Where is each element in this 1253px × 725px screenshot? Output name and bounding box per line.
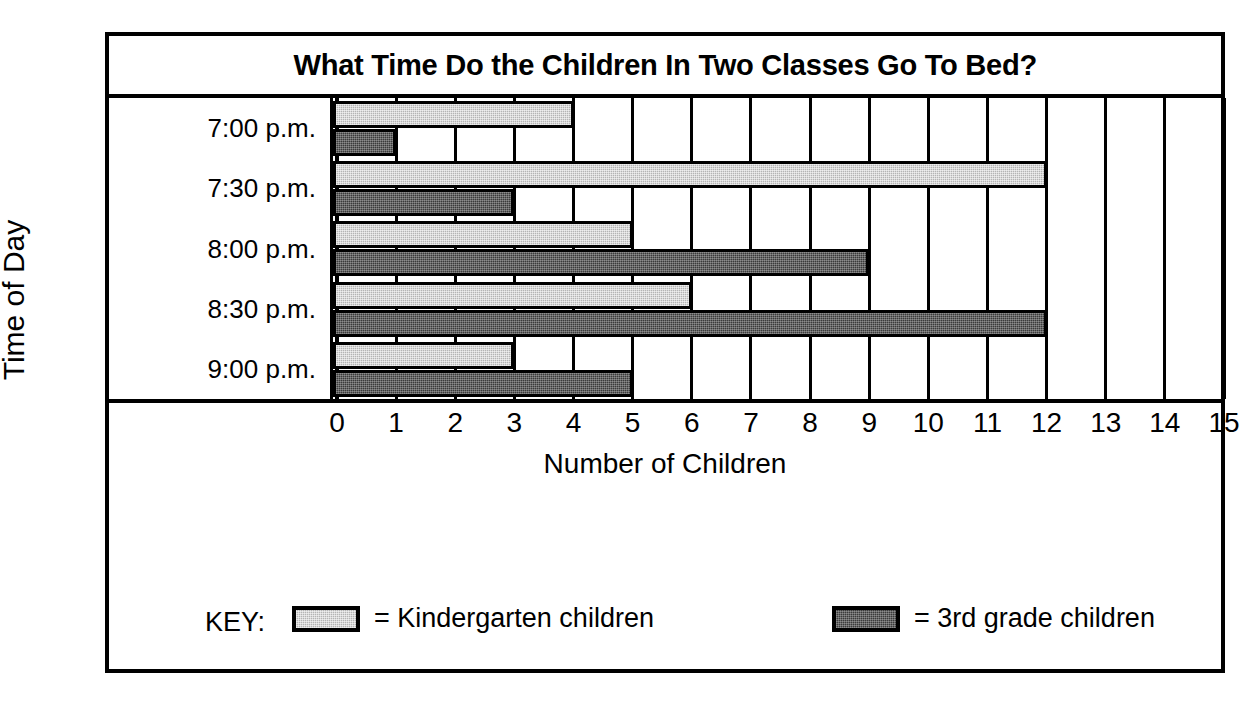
x-tick-1: 1 <box>388 407 404 439</box>
x-tick-15: 15 <box>1208 407 1239 439</box>
x-tick-13: 13 <box>1090 407 1121 439</box>
plot-band: 7:00 p.m.7:30 p.m.8:00 p.m.8:30 p.m.9:00… <box>109 98 1221 403</box>
bar-g3-2 <box>333 249 869 276</box>
gridline-12 <box>1045 98 1048 399</box>
x-tick-14: 14 <box>1149 407 1180 439</box>
bar-kg-1 <box>333 161 1047 188</box>
y-axis-title: Time of Day <box>0 220 31 381</box>
x-tick-4: 4 <box>566 407 582 439</box>
gridline-14 <box>1163 98 1166 399</box>
x-tick-5: 5 <box>625 407 641 439</box>
legend-swatch-3rd-grade <box>832 606 900 632</box>
legend-item-3rd-grade: = 3rd grade children <box>832 603 1155 634</box>
y-axis-label-4: 9:00 p.m. <box>208 353 316 384</box>
y-axis-category-labels: 7:00 p.m.7:30 p.m.8:00 p.m.8:30 p.m.9:00… <box>109 98 333 399</box>
x-axis-title: Number of Children <box>109 448 1221 480</box>
y-axis-label-0: 7:00 p.m. <box>208 113 316 144</box>
chart-legend: KEY: = Kindergarten children = 3rd grade… <box>109 591 1221 651</box>
x-axis-tick-labels: 0123456789101112131415 <box>333 407 1221 443</box>
y-axis-label-2: 8:00 p.m. <box>208 233 316 264</box>
x-tick-11: 11 <box>973 407 1002 439</box>
bar-g3-1 <box>333 189 514 216</box>
bar-kg-2 <box>333 221 633 248</box>
x-tick-9: 9 <box>861 407 877 439</box>
bar-kg-0 <box>333 101 574 128</box>
bar-g3-4 <box>333 370 633 397</box>
bar-g3-3 <box>333 310 1047 337</box>
gridline-13 <box>1104 98 1107 399</box>
legend-label-kindergarten: = Kindergarten children <box>374 603 654 634</box>
legend-label-3rd-grade: = 3rd grade children <box>914 603 1155 634</box>
gridline-10 <box>927 98 930 399</box>
x-tick-8: 8 <box>802 407 818 439</box>
chart-frame: What Time Do the Children In Two Classes… <box>105 32 1225 673</box>
x-tick-10: 10 <box>913 407 944 439</box>
x-tick-12: 12 <box>1031 407 1062 439</box>
x-tick-7: 7 <box>743 407 759 439</box>
chart-title-band: What Time Do the Children In Two Classes… <box>109 36 1221 98</box>
x-tick-3: 3 <box>507 407 523 439</box>
legend-swatch-kindergarten <box>292 606 360 632</box>
y-axis-label-1: 7:30 p.m. <box>208 173 316 204</box>
gridline-15 <box>1223 98 1226 399</box>
bar-kg-3 <box>333 282 692 309</box>
gridline-11 <box>986 98 989 399</box>
y-axis-label-3: 8:30 p.m. <box>208 293 316 324</box>
legend-item-kindergarten: = Kindergarten children <box>292 603 654 634</box>
x-tick-6: 6 <box>684 407 700 439</box>
x-tick-2: 2 <box>447 407 463 439</box>
chart-title: What Time Do the Children In Two Classes… <box>293 48 1036 82</box>
x-tick-0: 0 <box>329 407 345 439</box>
legend-key-label: KEY: <box>205 607 265 638</box>
bar-kg-4 <box>333 342 514 369</box>
plot-area <box>333 98 1221 399</box>
bar-g3-0 <box>333 129 396 156</box>
